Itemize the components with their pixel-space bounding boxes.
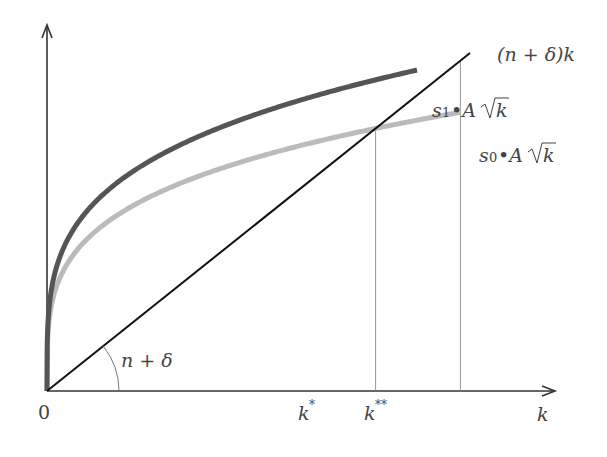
s1-label-rest: •A — [451, 99, 476, 121]
k-double-star-sup: ** — [375, 398, 387, 412]
k-star-tick-label: k * — [298, 398, 315, 424]
chart-canvas: (n + δ)k s 1 •A k s 0 •A k n + δ 0 k * k… — [0, 0, 607, 457]
s1-label-radicand: k — [496, 99, 508, 121]
break-even-label: (n + δ)k — [497, 43, 575, 65]
s1-label-s: s — [432, 99, 442, 121]
s1-curve-label: s 1 •A k — [432, 98, 509, 121]
x-axis-label: k — [537, 403, 549, 425]
k-star-sup: * — [309, 398, 315, 412]
origin-label: 0 — [38, 401, 50, 423]
s0-label-radicand: k — [543, 144, 555, 166]
s0-savings-curve — [47, 112, 461, 391]
solow-diagram: (n + δ)k s 1 •A k s 0 •A k n + δ 0 k * k… — [0, 0, 607, 457]
s0-curve-label: s 0 •A k — [479, 143, 556, 166]
angle-label: n + δ — [121, 349, 173, 371]
angle-arc — [103, 346, 119, 391]
k-double-star-tick-label: k ** — [364, 398, 387, 424]
k-double-star-base: k — [364, 402, 376, 424]
s0-label-rest: •A — [498, 144, 523, 166]
s1-savings-curve — [47, 70, 417, 391]
s0-label-s: s — [479, 144, 489, 166]
k-star-base: k — [298, 402, 310, 424]
s1-label-sub: 1 — [442, 105, 450, 120]
s0-label-sub: 0 — [489, 150, 497, 165]
